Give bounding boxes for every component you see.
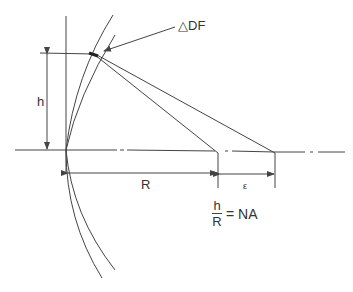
optical-axis [15, 150, 345, 152]
formula-numerator: h [213, 199, 220, 212]
formula-rhs: = NA [226, 206, 258, 222]
ray-to-R-focus [95, 55, 218, 153]
na-formula: h R = NA [212, 199, 258, 228]
epsilon-label: ε [243, 181, 247, 191]
optics-diagram [0, 0, 353, 292]
formula-denominator: R [212, 215, 221, 228]
delta-df-label: △DF [178, 18, 205, 33]
R-label: R [141, 177, 150, 192]
h-label: h [37, 94, 44, 109]
delta-df-segment [89, 53, 98, 56]
height-reference-line [40, 53, 95, 54]
ray-to-epsilon-focus [97, 55, 275, 153]
inner-sphere-curve [66, 35, 115, 270]
delta-df-leader-arrow [104, 27, 175, 51]
